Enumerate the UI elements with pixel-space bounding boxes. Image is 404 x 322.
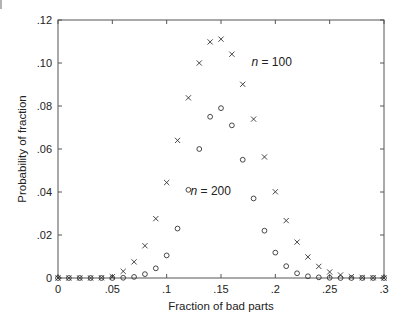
x-marker (262, 154, 267, 159)
series-annotations: n = 100n = 200 (191, 55, 293, 198)
x-tick-label: .1 (162, 283, 171, 295)
x-tick-label: .15 (213, 283, 228, 295)
circle-marker (251, 196, 256, 201)
x-tick-label: .2 (271, 283, 280, 295)
y-tick-label: 0 (46, 272, 52, 284)
x-axis-title: Fraction of bad parts (168, 300, 274, 312)
circle-marker (316, 275, 321, 280)
circle-marker (132, 275, 137, 280)
circle-marker (153, 266, 158, 271)
y-tick-label: .08 (37, 100, 52, 112)
y-tick-label: .10 (37, 57, 52, 69)
y-tick-label: .02 (37, 229, 52, 241)
x-marker (273, 189, 278, 194)
circle-marker (273, 250, 278, 255)
circle-marker (208, 114, 213, 119)
x-marker (327, 269, 332, 274)
x-marker (218, 37, 223, 42)
circle-marker (164, 253, 169, 258)
x-marker (240, 82, 245, 87)
circle-marker (240, 157, 245, 162)
circle-marker (295, 271, 300, 276)
y-tick-label: .12 (37, 14, 52, 26)
x-marker (186, 95, 191, 100)
y-tick-label: .04 (37, 186, 52, 198)
x-marker (208, 39, 213, 44)
axis-ticks (58, 20, 384, 278)
y-tick-label: .06 (37, 143, 52, 155)
circle-marker (262, 228, 267, 233)
x-tick-label: 0 (55, 283, 61, 295)
x-marker (284, 218, 289, 223)
x-tick-label: .3 (379, 283, 388, 295)
circle-marker (175, 226, 180, 231)
series-n-100-markers (55, 37, 386, 281)
x-marker (316, 264, 321, 269)
x-marker (294, 239, 299, 244)
x-marker (121, 269, 126, 274)
x-marker (175, 138, 180, 143)
x-marker (197, 60, 202, 65)
series-label: n = 200 (191, 184, 232, 198)
y-tick-labels: 0.02.04.06.08.10.12 (37, 14, 52, 284)
x-marker (164, 180, 169, 185)
circle-marker (229, 123, 234, 128)
circle-marker (284, 264, 289, 269)
circle-marker (219, 106, 224, 111)
series-label: n = 100 (251, 55, 292, 69)
x-marker (229, 52, 234, 57)
circle-marker (143, 272, 148, 277)
x-marker (131, 259, 136, 264)
x-tick-labels: 0.05.1.15.2.25.3 (55, 283, 389, 295)
circle-marker (197, 147, 202, 152)
x-marker (305, 254, 310, 259)
scatter-chart: 0.05.1.15.2.25.3 0.02.04.06.08.10.12 Fra… (0, 0, 404, 322)
plot-frame (58, 20, 384, 278)
y-axis-title: Probability of fraction (16, 95, 28, 202)
x-marker (142, 243, 147, 248)
x-marker (251, 117, 256, 122)
x-tick-label: .25 (322, 283, 337, 295)
x-marker (153, 216, 158, 221)
x-tick-label: .05 (105, 283, 120, 295)
